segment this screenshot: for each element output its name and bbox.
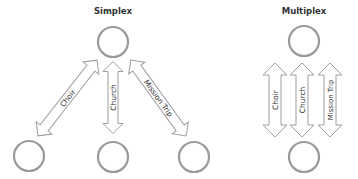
multiplex-bottom-node [289,142,319,172]
multiplex-top-node [289,26,319,56]
simplex-church-arrow: Church [103,62,123,134]
simplex-right-node [179,142,209,172]
simplex-mission-trip-label: Mission Trip [142,78,175,119]
multiplex-church-label: Church [298,86,307,113]
multiplex-church-arrow: Church [290,63,314,137]
multiplex-diagram: Multiplex Choir Church Mission Trip [263,6,342,172]
multiplex-title: Multiplex [282,6,327,16]
simplex-diagram: Simplex Choir Church Mission Trip [14,6,209,172]
multiplex-choir-arrow: Choir [263,63,287,137]
simplex-mission-trip-arrow: Mission Trip [123,54,194,142]
simplex-choir-arrow: Choir [30,54,105,142]
simplex-title: Simplex [94,6,133,16]
multiplex-mission-trip-label: Mission Trip [327,79,335,120]
simplex-center-node [98,27,128,57]
simplex-left-node [14,141,44,171]
simplex-middle-node [98,142,128,172]
simplex-church-label: Church [109,84,118,111]
diagram-canvas: Simplex Choir Church Mission Trip Multip… [0,0,358,179]
multiplex-choir-label: Choir [271,89,280,110]
multiplex-mission-trip-arrow: Mission Trip [318,63,342,137]
